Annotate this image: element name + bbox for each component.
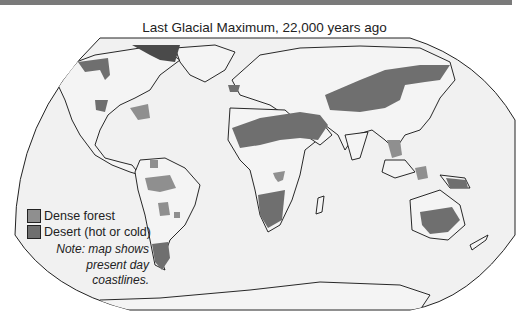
desert-swatch — [27, 225, 41, 239]
legend-label: Desert (hot or cold) — [44, 225, 151, 239]
forest-colombia — [150, 160, 158, 168]
forest-atlantic-2 — [174, 212, 180, 218]
note-line: present day — [27, 258, 149, 274]
legend-item-dense-forest: Dense forest — [27, 208, 151, 224]
desert-europe — [228, 85, 240, 92]
legend-item-desert: Desert (hot or cold) — [27, 224, 151, 240]
legend: Dense forest Desert (hot or cold) Note: … — [27, 208, 151, 289]
note-line: coastlines. — [27, 273, 149, 289]
legend-label: Dense forest — [44, 209, 115, 223]
dense-forest-swatch — [27, 209, 41, 223]
note-line: Note: map shows — [27, 242, 149, 258]
coastline-note: Note: map shows present day coastlines. — [27, 242, 149, 289]
forest-atlantic — [158, 202, 170, 216]
